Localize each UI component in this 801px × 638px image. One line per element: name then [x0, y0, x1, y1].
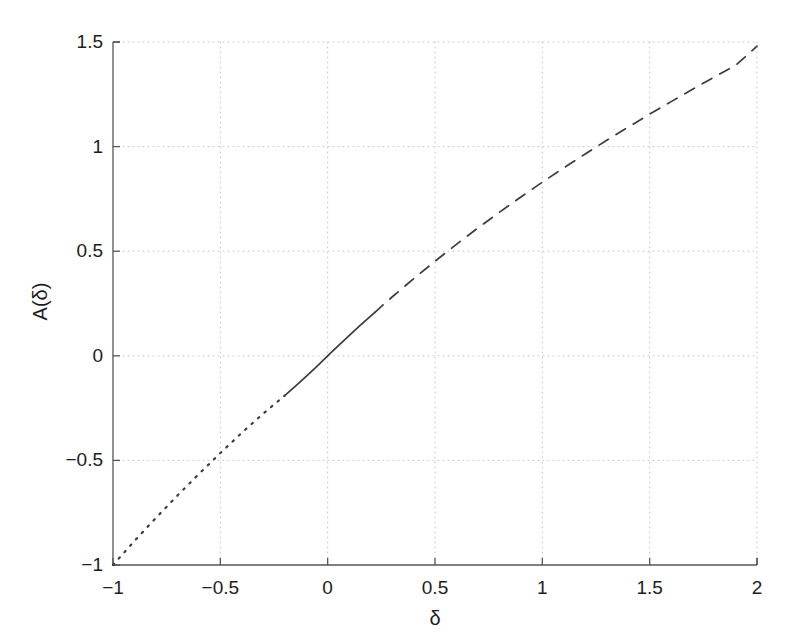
y-tick-label: 1.5: [77, 31, 103, 53]
y-tick-label: 0.5: [77, 240, 103, 262]
series-line-2: [375, 46, 757, 312]
y-tick-label: −1: [81, 554, 103, 576]
x-tick-label: 1.5: [636, 577, 662, 599]
series-line-1: [285, 312, 375, 395]
y-axis-title: A(δ): [29, 282, 52, 320]
y-tick-label: −0.5: [65, 449, 103, 471]
x-tick-label: 2: [752, 577, 763, 599]
x-tick-label: −0.5: [202, 577, 240, 599]
series-line-0: [113, 396, 285, 565]
x-tick-label: 0: [322, 577, 333, 599]
x-axis-title: δ: [429, 607, 440, 630]
y-tick-label: 0: [92, 345, 103, 367]
plot-canvas: [0, 0, 801, 638]
y-tick-label: 1: [92, 136, 103, 158]
x-tick-label: 0.5: [422, 577, 448, 599]
chart-figure: −1−0.500.511.52 −1−0.500.511.5 δ A(δ): [0, 0, 801, 638]
gridlines: [113, 42, 757, 565]
x-tick-label: −1: [102, 577, 124, 599]
x-tick-label: 1: [537, 577, 548, 599]
